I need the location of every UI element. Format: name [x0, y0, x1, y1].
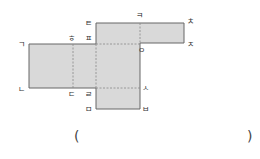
- answer-close-paren: ): [247, 128, 252, 144]
- label-digeut: ㄷ: [68, 90, 75, 99]
- net-outline: [29, 23, 184, 109]
- label-chieut: ㅊ: [187, 17, 194, 26]
- label-bieup: ㅂ: [142, 105, 149, 114]
- label-kieuk: ㅋ: [136, 11, 143, 20]
- label-jieut: ㅈ: [187, 40, 194, 49]
- label-siot: ㅅ: [142, 84, 149, 93]
- label-nieun: ㄴ: [18, 85, 25, 94]
- label-ieung: ㅇ: [138, 46, 145, 55]
- label-giyeok: ㄱ: [18, 40, 25, 49]
- label-pieup: ㅍ: [85, 34, 92, 43]
- label-rieul: ㄹ: [85, 90, 92, 99]
- answer-open-paren: (: [74, 128, 79, 144]
- answer-blank[interactable]: [84, 128, 244, 146]
- label-tieut: ㅌ: [85, 19, 92, 28]
- label-hieut: ㅎ: [68, 34, 75, 43]
- label-mieum: ㅁ: [85, 105, 92, 114]
